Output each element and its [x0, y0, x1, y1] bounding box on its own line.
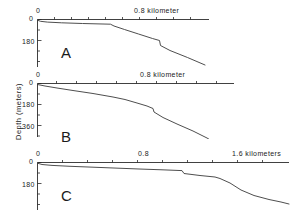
panel-c-plot	[37, 160, 292, 212]
panel-c-xtick-label-0: 0	[36, 150, 40, 157]
y-axis-title: Depth (meters)	[14, 83, 23, 140]
panel-b-plot	[37, 81, 237, 139]
panel-b-xtick-label-0point8: 0.8 kilometer	[140, 71, 185, 78]
panel-a-ytick-label-180: 180	[22, 38, 35, 45]
panel-b-ytick-label-180: 180	[22, 101, 35, 108]
panel-a-xtick-label-0: 0	[36, 7, 40, 14]
panel-b-ytick-label-360: 360	[22, 123, 35, 130]
panel-a-xtick-label-0point8: 0.8 kilometer	[134, 7, 179, 14]
panel-c-ytick-label-0: 0	[29, 158, 33, 165]
panel-c-xtick-label-1point6: 1.6 kilometers	[232, 150, 281, 157]
panel-c-xtick-label-0point8: 0.8	[138, 150, 149, 157]
panel-b-xtick-label-0: 0	[36, 71, 40, 78]
bathymetry-profile-figure: Depth (meters) 0 0.8 kilometer 0 180 A	[0, 0, 307, 215]
panel-a-ytick-label-0: 0	[29, 15, 33, 22]
panel-c-ytick-label-180: 180	[22, 181, 35, 188]
panel-b-ytick-label-0: 0	[29, 79, 33, 86]
panel-a-plot	[37, 17, 212, 69]
